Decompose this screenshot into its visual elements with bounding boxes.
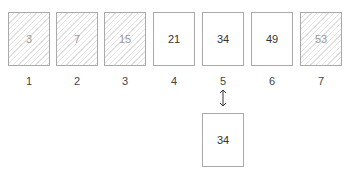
cell-value: 34 [217,33,229,45]
target-value-box: 34 [202,113,244,167]
up-down-arrow-icon [218,89,228,107]
cell-value: 15 [119,33,131,45]
array-cell-5: 34 [202,12,244,66]
cell-value: 53 [315,33,327,45]
array-cell-1: 3 [8,12,50,66]
cell-value: 3 [26,33,32,45]
index-label-5: 5 [202,75,244,87]
index-label-4: 4 [153,75,195,87]
index-label-6: 6 [251,75,293,87]
array-cell-3: 15 [104,12,146,66]
index-label-1: 1 [8,75,50,87]
array-cell-6: 49 [251,12,293,66]
cell-value: 49 [266,33,278,45]
cell-value: 7 [74,33,80,45]
index-label-3: 3 [104,75,146,87]
target-value: 34 [217,134,229,146]
array-cell-4: 21 [153,12,195,66]
array-cell-2: 7 [56,12,98,66]
index-label-2: 2 [56,75,98,87]
array-cell-7: 53 [300,12,342,66]
index-label-7: 7 [300,75,342,87]
cell-value: 21 [168,33,180,45]
